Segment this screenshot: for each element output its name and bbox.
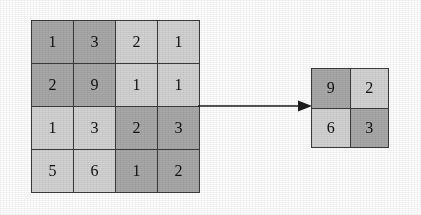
matrix-cell: 6: [312, 109, 351, 149]
matrix-cell: 1: [158, 64, 200, 107]
matrix-cell: 1: [32, 107, 74, 150]
diagram-canvas: 1321291113235612 9263: [0, 0, 421, 215]
matrix-cell: 5: [32, 150, 74, 193]
matrix-cell: 2: [158, 150, 200, 193]
pooling-arrow-icon: [198, 96, 314, 116]
matrix-cell: 6: [74, 150, 116, 193]
arrow-head: [298, 101, 312, 112]
matrix-cell: 1: [158, 21, 200, 64]
matrix-cell: 3: [158, 107, 200, 150]
output-matrix: 9263: [311, 68, 389, 148]
matrix-cell: 2: [116, 21, 158, 64]
matrix-cell: 1: [32, 21, 74, 64]
matrix-cell: 9: [312, 69, 351, 109]
matrix-cell: 3: [351, 109, 390, 149]
matrix-cell: 2: [351, 69, 390, 109]
matrix-cell: 9: [74, 64, 116, 107]
matrix-cell: 3: [74, 107, 116, 150]
matrix-cell: 1: [116, 150, 158, 193]
matrix-cell: 3: [74, 21, 116, 64]
matrix-cell: 1: [116, 64, 158, 107]
input-matrix: 1321291113235612: [31, 20, 200, 193]
matrix-cell: 2: [32, 64, 74, 107]
matrix-cell: 2: [116, 107, 158, 150]
